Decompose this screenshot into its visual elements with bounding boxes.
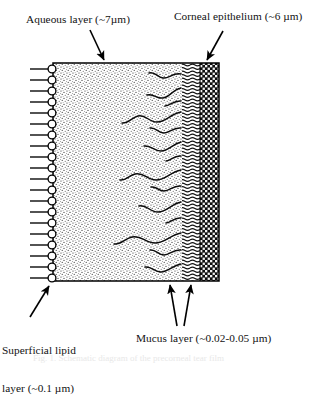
mucus-layer-label: Mucus layer (~0.02-0.05 µm) <box>136 332 271 345</box>
mucus-arrow-left <box>170 285 177 326</box>
mucus-layer-fill <box>182 63 200 281</box>
corneal-arrow <box>207 31 223 60</box>
mucus-arrow-right <box>184 285 191 326</box>
superficial-lipid-molecules <box>30 65 56 282</box>
superficial-lipid-label-line2: layer (~0.1 µm) <box>2 382 76 395</box>
aqueous-layer-fill <box>53 63 182 281</box>
corneal-epithelium-fill <box>200 63 219 281</box>
aqueous-arrow <box>90 30 104 60</box>
corneal-epithelium-label: Corneal epithelium (~6 µm) <box>174 10 302 23</box>
aqueous-layer-label: Aqueous layer (~7µm) <box>26 13 130 26</box>
lipid-arrow <box>30 286 49 317</box>
figure-caption: Fig. 1. Schematic diagram of the precorn… <box>33 353 313 364</box>
